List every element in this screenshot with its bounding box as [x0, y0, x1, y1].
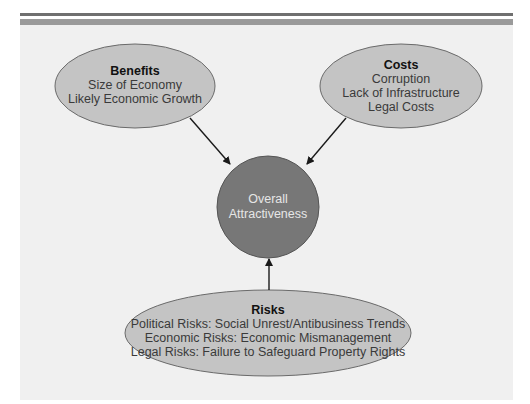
- risks-item: Economic Risks: Economic Mismanagement: [125, 331, 411, 345]
- costs-item: Lack of Infrastructure: [320, 86, 482, 100]
- center-node: Overall Attractiveness: [217, 192, 319, 222]
- costs-node: Costs Corruption Lack of Infrastructure …: [320, 58, 482, 114]
- costs-item: Legal Costs: [320, 100, 482, 114]
- costs-item: Corruption: [320, 72, 482, 86]
- risks-item: Political Risks: Social Unrest/Antibusin…: [125, 317, 411, 331]
- benefits-item: Likely Economic Growth: [55, 92, 215, 106]
- costs-title: Costs: [320, 58, 482, 72]
- risks-node: Risks Political Risks: Social Unrest/Ant…: [125, 303, 411, 359]
- benefits-title: Benefits: [55, 64, 215, 78]
- arrow-benefits-to-center: [190, 118, 230, 164]
- risks-title: Risks: [125, 303, 411, 317]
- benefits-item: Size of Economy: [55, 78, 215, 92]
- risks-item: Legal Risks: Failure to Safeguard Proper…: [125, 345, 411, 359]
- benefits-node: Benefits Size of Economy Likely Economic…: [55, 64, 215, 106]
- center-line: Attractiveness: [217, 207, 319, 222]
- arrow-costs-to-center: [307, 118, 346, 164]
- center-line: Overall: [217, 192, 319, 207]
